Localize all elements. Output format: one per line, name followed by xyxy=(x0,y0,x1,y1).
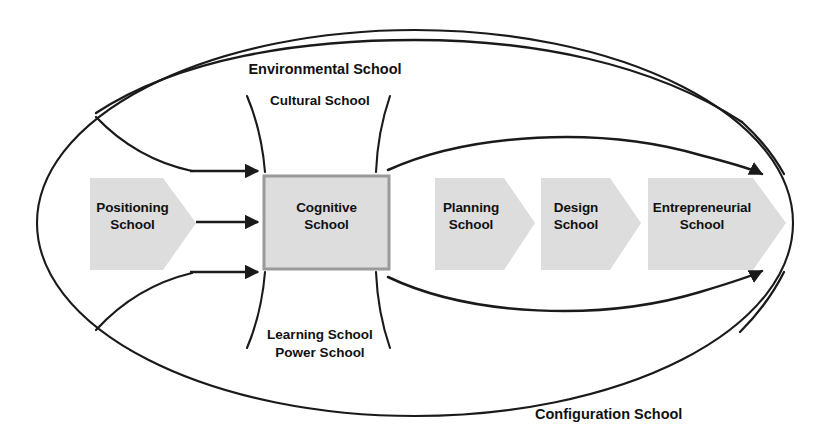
node-shape-cognitive-school[interactable] xyxy=(264,176,389,269)
node-shape-entrepreneurial-school[interactable] xyxy=(648,178,786,270)
ring-label-environmental-school: Environmental School xyxy=(205,60,445,79)
environmental-arc-lower-right-return xyxy=(740,272,784,332)
node-shape-planning-school[interactable] xyxy=(435,178,535,270)
ring-label-cultural-school: Cultural School xyxy=(245,92,395,110)
node-shape-design-school[interactable] xyxy=(541,178,641,270)
arrow-upper-sweep-right xyxy=(388,137,762,174)
feeder-curve-top xyxy=(96,117,192,171)
node-shape-positioning-school[interactable] xyxy=(90,178,196,270)
ring-label-learning-power-school: Learning School Power School xyxy=(245,326,395,361)
arrow-lower-sweep-right xyxy=(388,271,762,311)
ring-label-configuration-school: Configuration School xyxy=(535,405,775,424)
environmental-arc-upper-left xyxy=(96,40,742,122)
schools-of-strategy-diagram: Positioning School Cognitive School Plan… xyxy=(0,0,826,447)
feeder-curve-bottom xyxy=(96,273,192,330)
